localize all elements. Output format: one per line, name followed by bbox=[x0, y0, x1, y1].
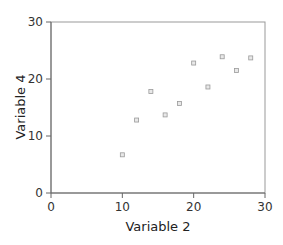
y-tick-label: 20 bbox=[28, 72, 43, 86]
scatter-chart: 01020300102030 Variable 2 Variable 4 bbox=[0, 0, 283, 245]
scatter-point-square-icon bbox=[206, 85, 210, 89]
x-axis-label: Variable 2 bbox=[125, 219, 190, 234]
x-tick-label: 0 bbox=[47, 200, 55, 214]
scatter-point-square-icon bbox=[177, 102, 181, 106]
scatter-point-square-icon bbox=[120, 153, 124, 157]
data-points bbox=[120, 55, 252, 157]
y-tick-label: 0 bbox=[35, 186, 43, 200]
y-tick-label: 10 bbox=[28, 129, 43, 143]
axis-ticks: 01020300102030 bbox=[28, 15, 273, 214]
scatter-point-square-icon bbox=[135, 118, 139, 122]
scatter-point-square-icon bbox=[149, 90, 153, 94]
scatter-point-square-icon bbox=[163, 113, 167, 117]
y-axis-label: Variable 4 bbox=[13, 74, 28, 139]
scatter-point-square-icon bbox=[234, 68, 238, 72]
plot-frame bbox=[51, 22, 265, 193]
scatter-point-square-icon bbox=[220, 55, 224, 59]
scatter-point-square-icon bbox=[192, 61, 196, 65]
x-tick-label: 20 bbox=[186, 200, 201, 214]
y-tick-label: 30 bbox=[28, 15, 43, 29]
x-tick-label: 10 bbox=[115, 200, 130, 214]
x-tick-label: 30 bbox=[257, 200, 272, 214]
scatter-point-square-icon bbox=[249, 56, 253, 60]
